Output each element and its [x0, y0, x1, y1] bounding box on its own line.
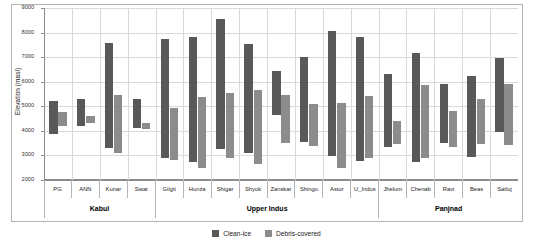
y-axis-tick-label: 8000 — [0, 30, 34, 36]
bar-clean-ice-beas — [467, 76, 475, 158]
category-gridline — [379, 8, 380, 180]
bar-debris-covered-u_indus — [365, 96, 373, 158]
legend-item-clean-ice[interactable]: Clean-ice — [212, 230, 251, 237]
bar-clean-ice-zanskar — [272, 71, 280, 115]
plot-area: 90008000700060005000400030002000 — [44, 8, 518, 180]
bar-clean-ice-shyok — [244, 44, 252, 153]
category-gridline — [100, 8, 101, 180]
x-axis-label-pg: PG — [44, 180, 72, 198]
bar-debris-covered-astor — [337, 103, 345, 168]
bar-debris-covered-beas — [477, 99, 485, 144]
x-axis-label-gilgit: Gilgit — [156, 180, 184, 198]
category-gridline — [351, 8, 352, 180]
bar-debris-covered-ravi — [449, 111, 457, 146]
y-axis-tick — [41, 8, 45, 9]
bar-debris-covered-gilgit — [170, 108, 178, 160]
y-axis-tick — [41, 106, 45, 107]
category-gridline — [462, 8, 463, 180]
x-axis-label-hunza: Hunza — [184, 180, 212, 198]
gridline — [44, 8, 518, 9]
gridline — [44, 33, 518, 34]
category-gridline — [72, 8, 73, 180]
y-axis-tick — [41, 57, 45, 58]
group-label-panjnad: Panjnad — [379, 198, 518, 218]
y-axis-tick — [41, 131, 45, 132]
y-axis-tick-label: 4000 — [0, 128, 34, 134]
x-axis-label-shyok: Shyok — [240, 180, 268, 198]
y-axis-tick-label: 2000 — [0, 177, 34, 183]
bar-clean-ice-u_indus — [356, 37, 364, 162]
bar-clean-ice-shigar — [216, 19, 224, 149]
gridline — [44, 155, 518, 156]
x-axis-label-beas: Beas — [463, 180, 491, 198]
category-gridline — [490, 8, 491, 180]
bar-clean-ice-satluj — [495, 58, 503, 132]
category-gridline — [295, 8, 296, 180]
bar-debris-covered-chenab — [421, 85, 429, 159]
y-axis-tick-label: 6000 — [0, 79, 34, 85]
x-axis-label-zanskar: Zanskar — [268, 180, 296, 198]
x-axis-label-ravi: Ravi — [435, 180, 463, 198]
x-axis-label-jhelum: Jhelum — [379, 180, 407, 198]
x-axis-label-chenab: Chenab — [407, 180, 435, 198]
category-gridline — [267, 8, 268, 180]
bar-debris-covered-shyok — [254, 90, 262, 164]
x-axis-category-labels: PGANNKunarSwatGilgitHunzaShigarShyokZans… — [44, 180, 518, 198]
bar-clean-ice-shingo — [300, 57, 308, 141]
y-axis-tick-label: 5000 — [0, 103, 34, 109]
bar-clean-ice-chenab — [412, 53, 420, 161]
bar-debris-covered-swat — [142, 123, 150, 129]
bar-debris-covered-pg — [58, 112, 66, 126]
bar-clean-ice-gilgit — [161, 39, 169, 158]
y-axis-tick — [41, 33, 45, 34]
y-axis-tick-label: 3000 — [0, 152, 34, 158]
y-axis-tick-label: 9000 — [0, 5, 34, 11]
bar-clean-ice-astor — [328, 31, 336, 157]
gridline — [44, 57, 518, 58]
gridline — [44, 82, 518, 83]
debris-covered-swatch — [265, 230, 272, 237]
y-axis-tick — [41, 155, 45, 156]
x-axis-label-shigar: Shigar — [212, 180, 240, 198]
category-gridline — [128, 8, 129, 180]
category-gridline — [323, 8, 324, 180]
bar-debris-covered-satluj — [504, 84, 512, 145]
bar-clean-ice-jhelum — [384, 74, 392, 147]
x-axis-label-ann: ANN — [72, 180, 100, 198]
group-label-kabul: Kabul — [44, 198, 156, 218]
category-gridline — [183, 8, 184, 180]
bar-debris-covered-zanskar — [281, 95, 289, 143]
category-gridline — [434, 8, 435, 180]
x-axis-label-kunar: Kunar — [100, 180, 128, 198]
x-axis-label-astor: Astor — [323, 180, 351, 198]
clean-ice-swatch — [212, 230, 219, 237]
bar-debris-covered-hunza — [198, 97, 206, 168]
bar-debris-covered-shigar — [226, 93, 234, 158]
bar-clean-ice-kunar — [105, 43, 113, 148]
y-axis-tick-label: 7000 — [0, 54, 34, 60]
category-gridline — [406, 8, 407, 180]
bar-clean-ice-ann — [77, 99, 85, 126]
y-axis-tick — [41, 82, 45, 83]
bar-debris-covered-kunar — [114, 95, 122, 153]
elevation-range-bar-chart: Elevation (masl) 90008000700060005000400… — [0, 0, 533, 245]
category-gridline — [211, 8, 212, 180]
legend-label: Debris-covered — [276, 230, 321, 237]
bar-clean-ice-swat — [133, 99, 141, 128]
bar-debris-covered-shingo — [309, 104, 317, 146]
chart-legend: Clean-iceDebris-covered — [0, 226, 533, 240]
x-axis-group-labels: KabulUpper IndusPanjnad — [44, 198, 518, 218]
bar-debris-covered-jhelum — [393, 121, 401, 144]
bar-clean-ice-ravi — [440, 84, 448, 143]
bar-clean-ice-hunza — [189, 37, 197, 161]
category-gridline — [239, 8, 240, 180]
legend-item-debris-covered[interactable]: Debris-covered — [265, 230, 321, 237]
bar-clean-ice-pg — [49, 101, 57, 134]
category-gridline — [156, 8, 157, 180]
x-axis-label-u_indus: U_Indus — [351, 180, 379, 198]
x-axis-label-shingo: Shingo — [295, 180, 323, 198]
x-axis-label-satluj: Satluj — [491, 180, 518, 198]
bar-debris-covered-ann — [86, 116, 94, 124]
x-axis-label-swat: Swat — [128, 180, 156, 198]
group-label-upper-indus: Upper Indus — [156, 198, 379, 218]
